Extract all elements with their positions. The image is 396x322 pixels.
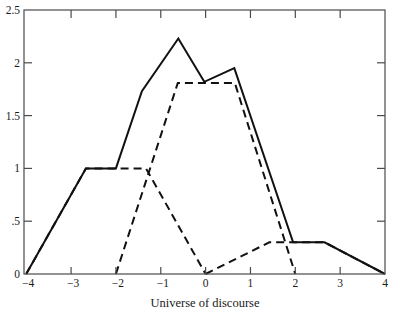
y-tick-label: 1	[14, 162, 20, 174]
y-tick-label: .5	[11, 215, 20, 227]
x-tick-label: 2	[292, 277, 298, 289]
series-group	[26, 39, 385, 275]
x-tick-label: −4	[22, 277, 34, 289]
x-axis-label: Universe of discourse	[151, 296, 260, 310]
x-tick-label: −1	[157, 277, 169, 289]
series-dashed-set-2	[116, 83, 295, 274]
x-tick-label: −2	[112, 277, 124, 289]
ticks-group	[24, 10, 385, 274]
x-tick-labels: −4−3−2−101234	[22, 277, 388, 289]
plot-frame	[24, 10, 385, 274]
y-tick-label: 1.5	[6, 110, 21, 122]
x-tick-label: 3	[337, 277, 343, 289]
y-tick-label: 2.5	[6, 4, 21, 16]
y-tick-label: 2	[14, 57, 20, 69]
x-tick-label: 4	[382, 277, 388, 289]
x-tick-label: 1	[248, 277, 254, 289]
chart: −4−3−2−101234 0.511.522.5 Universe of di…	[0, 0, 396, 322]
series-dashed-set-1	[26, 168, 205, 274]
series-solid-combined	[26, 39, 385, 275]
x-tick-label: −3	[67, 277, 79, 289]
y-tick-labels: 0.511.522.5	[6, 4, 21, 280]
x-tick-label: 0	[203, 277, 209, 289]
y-tick-label: 0	[14, 268, 20, 280]
